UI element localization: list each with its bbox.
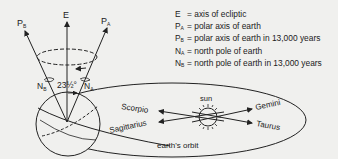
- spin-loop-b: [44, 78, 54, 82]
- label-e: E: [63, 10, 69, 20]
- legend-item-e: E= axis of ecliptic: [175, 9, 322, 21]
- label-na: NA: [84, 81, 94, 92]
- legend: E= axis of ecliptic PA= polar axis of ea…: [175, 9, 322, 70]
- label-nb: NB: [37, 81, 47, 92]
- label-taurus: Taurus: [256, 119, 281, 132]
- legend-item-pb: PB= polar axis of earth in 13,000 years: [175, 33, 322, 45]
- label-sagittarius: Sagittarius: [109, 118, 148, 135]
- legend-item-na: NA= north pole of earth: [175, 46, 322, 58]
- label-gemini: Gemini: [255, 98, 282, 112]
- label-sun: sun: [200, 94, 212, 103]
- label-pa: PA: [101, 16, 111, 27]
- label-earths-orbit: earth's orbit: [157, 141, 199, 150]
- label-scorpio: Scorpio: [121, 102, 150, 115]
- label-pb: PB: [17, 18, 27, 29]
- label-angle: 23½°: [57, 80, 77, 90]
- precession-direction-arrow: [76, 68, 86, 69]
- legend-item-pa: PA= polar axis of earth: [175, 21, 322, 33]
- legend-item-nb: NB= north pole of earth in 13,000 years: [175, 58, 322, 70]
